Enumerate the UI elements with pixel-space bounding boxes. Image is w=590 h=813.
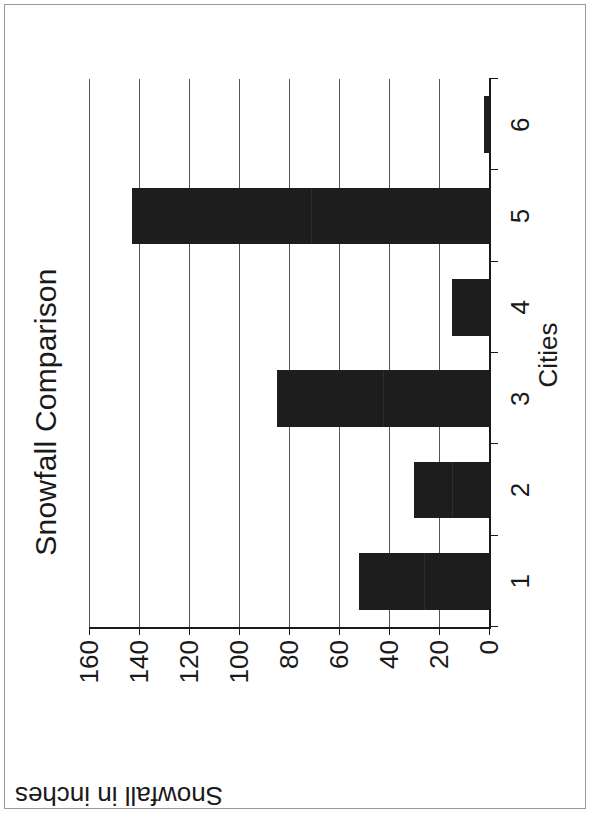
x-axis-tick-label: 4 [505, 300, 536, 314]
y-axis-tick-label: 120 [174, 640, 205, 683]
bar[interactable] [359, 553, 489, 610]
x-axis-tick [489, 534, 498, 535]
bar-chart: Snowfall Comparison 02040608010012014016… [15, 17, 585, 807]
y-axis-tick-label: 80 [274, 640, 305, 669]
bar-scan-seam [311, 187, 312, 244]
y-axis-tick-label: 100 [224, 640, 255, 683]
chart-title: Snowfall Comparison [29, 17, 63, 807]
gridline [189, 79, 190, 627]
x-axis-tick [489, 78, 498, 79]
x-axis-tick-label: 3 [505, 391, 536, 405]
y-axis-tick-label: 160 [74, 640, 105, 683]
y-axis-tick [89, 627, 90, 635]
x-axis-tick [489, 352, 498, 353]
x-axis-tick-label: 6 [505, 117, 536, 131]
bar-scan-seam [383, 370, 384, 427]
rotated-chart-wrapper: Snowfall Comparison 02040608010012014016… [15, 17, 585, 807]
y-axis-tick [139, 627, 140, 635]
y-axis-tick-label: 0 [474, 640, 505, 654]
y-axis-tick [439, 627, 440, 635]
gridline [339, 79, 340, 627]
bar-scan-seam [424, 553, 425, 610]
bar-scan-seam [452, 461, 453, 518]
y-axis-tick [389, 627, 390, 635]
x-axis-tick [489, 626, 498, 627]
gridline [139, 79, 140, 627]
bar[interactable] [414, 461, 489, 518]
x-axis-tick [489, 443, 498, 444]
y-axis-tick-label: 40 [374, 640, 405, 669]
x-axis-tick-label: 5 [505, 208, 536, 222]
x-axis-tick-label: 1 [505, 574, 536, 588]
y-axis-tick-label: 60 [324, 640, 355, 669]
gridline [289, 79, 290, 627]
x-axis-tick [489, 169, 498, 170]
gridline [89, 79, 90, 627]
gridline [239, 79, 240, 627]
plot-area: 020406080100120140160123456 [89, 79, 491, 629]
gridline [439, 79, 440, 627]
x-axis-title: Cities [533, 81, 564, 629]
x-axis-tick-label: 2 [505, 482, 536, 496]
y-axis-title: Snowfall in inches [0, 780, 289, 811]
y-axis-tick-label: 20 [424, 640, 455, 669]
y-axis-tick [489, 627, 490, 635]
y-axis-tick [339, 627, 340, 635]
y-axis-tick-label: 140 [124, 640, 155, 683]
scanned-page-frame: Snowfall Comparison 02040608010012014016… [4, 4, 586, 809]
x-axis-tick [489, 260, 498, 261]
bar[interactable] [277, 370, 490, 427]
y-axis-tick [239, 627, 240, 635]
bar[interactable] [132, 187, 490, 244]
bar[interactable] [484, 96, 489, 153]
y-axis-tick [189, 627, 190, 635]
y-axis-tick [289, 627, 290, 635]
gridline [389, 79, 390, 627]
bar[interactable] [452, 279, 490, 336]
